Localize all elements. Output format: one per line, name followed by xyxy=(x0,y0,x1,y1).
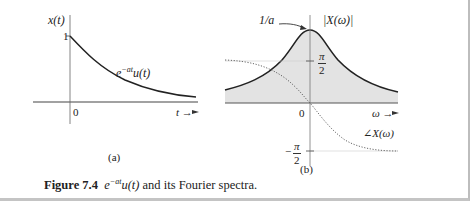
panel-b-origin: 0 xyxy=(299,108,305,119)
curve-label-func: u(t) xyxy=(133,66,150,80)
negpi2-num: π xyxy=(293,141,301,154)
curve-label-sup: −at xyxy=(121,65,133,74)
panel-a-ytick-label: 1 xyxy=(63,31,69,42)
panel-a-x-arrow-icon xyxy=(192,110,199,114)
panel-b-peak-label: 1/a xyxy=(259,14,274,26)
panel-b-sublabel: (b) xyxy=(300,164,313,175)
panel-b-neg-sign: − xyxy=(285,146,291,157)
pi2-den: 2 xyxy=(318,64,326,76)
panel-b-xlabel: ω → xyxy=(372,108,394,119)
panel-b-mag-fill xyxy=(225,30,398,103)
panel-b-plot xyxy=(225,15,399,166)
panel-b-phase-label: ∠X(ω) xyxy=(363,128,394,139)
caption-math-sup: −at xyxy=(110,177,122,186)
caption-text: and its Fourier spectra. xyxy=(139,178,257,192)
panel-a-xlabel: t → xyxy=(176,107,193,118)
caption-math-func: u(t) xyxy=(121,178,139,192)
panel-a-origin: 0 xyxy=(73,107,79,118)
panel-b-peak-arrow-icon xyxy=(300,25,307,30)
panel-b-pi2-label: π2 xyxy=(318,51,326,76)
panel-b-peak-pointer xyxy=(279,24,304,28)
panel-a-ylabel: x(t) xyxy=(48,14,65,26)
figure-number: Figure 7.4 xyxy=(44,178,98,192)
figure-caption: Figure 7.4 e−atu(t) and its Fourier spec… xyxy=(44,177,257,193)
panel-a-sublabel: (a) xyxy=(108,152,120,163)
panel-a-curve-label: e−atu(t) xyxy=(116,66,150,79)
panel-b-mag-label: |X(ω)| xyxy=(323,14,353,26)
pi2-num: π xyxy=(318,51,326,64)
